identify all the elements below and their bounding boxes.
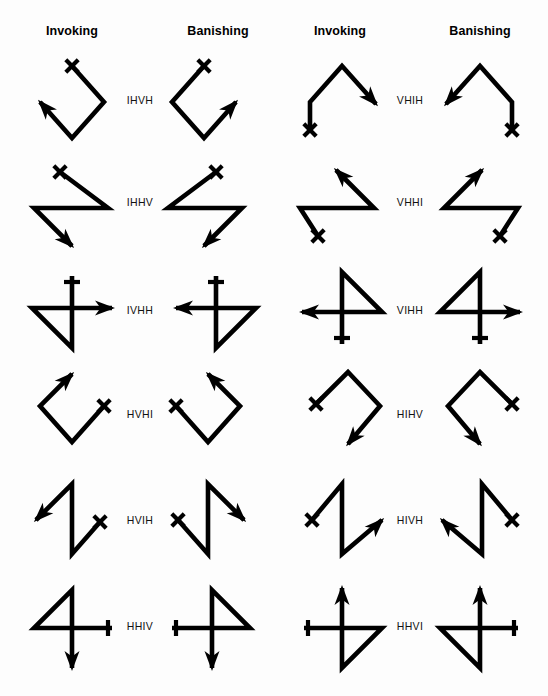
sigil-chart-sheet: InvokingBanishingInvokingBanishing IHVHI…: [0, 0, 548, 696]
arrow-head-icon-vihh-invoking: [299, 305, 319, 320]
start-cross-icon-ihvh-banishing: [198, 60, 210, 72]
start-cross-icon-hihv-invoking: [310, 398, 322, 410]
arrow-head-icon-ivhh-invoking: [95, 301, 115, 316]
arrow-head-icon-hivh-banishing: [440, 518, 459, 537]
sigil-name-label-hvhi-left: HVHI: [127, 408, 153, 420]
column-headers: InvokingBanishingInvokingBanishing: [0, 0, 548, 46]
arrow-head-icon-hhiv-banishing: [205, 651, 220, 671]
arrow-head-icon-ihhv-invoking: [55, 229, 74, 248]
start-cross-icon-ihhv-banishing: [210, 166, 222, 178]
sigil-hvhi-banishing: [170, 372, 240, 442]
arrow-head-icon-hvhi-invoking: [55, 372, 74, 391]
sigil-drawing-layer: [0, 0, 548, 696]
sigil-hvih-banishing: [172, 484, 246, 554]
sigil-hivh-banishing: [440, 484, 518, 554]
sigil-ihhv-invoking: [34, 166, 108, 248]
sigil-hhvi-banishing: [440, 585, 518, 668]
arrow-head-icon-vhih-invoking: [359, 86, 378, 106]
start-cross-icon-hvih-invoking-b: [94, 516, 106, 528]
arrow-head-icon-ivhh-banishing: [173, 301, 193, 316]
arrow-head-icon-hihv-banishing: [463, 426, 482, 446]
sigil-stroke-hihv-invoking: [316, 372, 380, 444]
arrow-head-icon-ihvh-banishing: [219, 100, 238, 120]
sigil-stroke-vhih-banishing: [446, 66, 512, 130]
sigil-hihv-invoking: [310, 372, 380, 446]
sigil-ihvh-banishing: [172, 60, 238, 138]
arrow-head-icon-ihvh-invoking: [38, 100, 57, 120]
start-cross-icon-vhhi-invoking-b: [312, 230, 324, 242]
column-header-invoking-2: Invoking: [314, 24, 366, 38]
start-cross-icon-ihhv-invoking-b: [54, 166, 66, 178]
sigil-stroke-ivhh-banishing: [176, 276, 256, 348]
sigil-hhvi-invoking: [304, 585, 382, 668]
sigil-name-label-vhhi-right: VHHI: [397, 196, 423, 208]
arrow-head-icon-vihh-banishing: [503, 305, 523, 320]
sigil-stroke-hvih-invoking: [36, 484, 100, 554]
start-cross-icon-hivh-invoking: [306, 514, 318, 526]
arrow-head-icon-ihhv-banishing: [202, 229, 221, 248]
start-cross-icon-hvhi-banishing: [170, 400, 182, 412]
sigil-stroke-hhiv-banishing: [172, 590, 250, 668]
sigil-stroke-hvih-banishing: [178, 484, 244, 554]
sigil-name-label-vhih-right: VHIH: [397, 94, 423, 106]
arrow-head-icon-hhvi-banishing: [473, 585, 488, 605]
sigil-name-label-ivhh-left: IVHH: [127, 304, 153, 316]
arrow-head-icon-vhhi-banishing: [465, 168, 484, 187]
sigil-vhih-banishing: [444, 66, 518, 136]
start-cross-icon-hihv-invoking-b: [310, 398, 322, 410]
start-cross-icon-ihvh-banishing-b: [198, 60, 210, 72]
sigil-stroke-ihhv-invoking: [34, 172, 108, 246]
sigil-stroke-ihvh-banishing: [172, 66, 236, 138]
sigil-name-label-ihhv-left: IHHV: [127, 196, 153, 208]
sigil-name-label-ihvh-left: IHVH: [127, 94, 153, 106]
arrow-head-icon-hvih-banishing: [227, 503, 246, 522]
sigil-stroke-hhvi-banishing: [440, 588, 518, 668]
sigil-stroke-hhvi-invoking: [304, 588, 382, 668]
arrow-head-icon-hivh-invoking: [365, 518, 384, 537]
sigil-stroke-vihh-invoking: [302, 272, 382, 344]
sigil-stroke-vhih-invoking: [310, 66, 376, 130]
sigil-stroke-hihv-banishing: [448, 372, 512, 444]
sigil-stroke-hhiv-invoking: [34, 590, 112, 668]
sigil-stroke-hivh-invoking: [312, 484, 382, 554]
sigil-name-label-hivh-right: HIVH: [397, 514, 423, 526]
sigil-vihh-invoking: [299, 272, 382, 344]
start-cross-icon-ihvh-invoking-b: [66, 60, 78, 72]
sigil-stroke-hvhi-banishing: [176, 374, 240, 442]
sigil-vhih-invoking: [304, 66, 378, 136]
sigil-stroke-vihh-banishing: [440, 272, 520, 344]
start-cross-icon-hihv-banishing-b: [506, 398, 518, 410]
start-cross-icon-hivh-banishing: [506, 514, 518, 526]
sigil-hvhi-invoking: [40, 372, 110, 442]
sigil-ivhh-invoking: [32, 276, 115, 348]
column-header-invoking-0: Invoking: [46, 24, 98, 38]
sigil-hhiv-banishing: [172, 590, 250, 671]
sigil-hihv-banishing: [448, 372, 518, 446]
sigil-vihh-banishing: [440, 272, 523, 344]
start-cross-icon-hvih-banishing-b: [172, 514, 184, 526]
start-cross-icon-hvhi-banishing-b: [170, 400, 182, 412]
start-cross-icon-ihhv-banishing-b: [210, 166, 222, 178]
sigil-hvih-invoking: [34, 484, 106, 554]
arrow-head-icon-hvih-invoking: [34, 503, 53, 522]
start-cross-icon-vhih-invoking: [304, 124, 316, 136]
start-cross-icon-vhhi-banishing-b: [494, 230, 506, 242]
start-cross-icon-hivh-invoking-b: [306, 514, 318, 526]
sigil-stroke-vhhi-invoking: [300, 170, 374, 236]
sigil-stroke-ihvh-invoking: [40, 66, 104, 138]
arrow-head-icon-hihv-invoking: [346, 426, 365, 446]
sigil-stroke-hvhi-invoking: [40, 374, 104, 442]
start-cross-icon-hvih-invoking: [94, 516, 106, 528]
sigil-name-label-hhiv-left: HHIV: [127, 620, 153, 632]
sigil-stroke-ivhh-invoking: [32, 276, 112, 348]
start-cross-icon-hvhi-invoking-b: [98, 400, 110, 412]
start-cross-icon-ihvh-invoking: [66, 60, 78, 72]
sigil-ivhh-banishing: [173, 276, 256, 348]
arrow-head-icon-hvhi-banishing: [206, 372, 225, 391]
arrow-head-icon-hhiv-invoking: [65, 651, 80, 671]
start-cross-icon-hivh-banishing-b: [506, 514, 518, 526]
sigil-name-label-hvih-left: HVIH: [127, 514, 153, 526]
start-cross-icon-vhih-banishing-b: [506, 124, 518, 136]
start-cross-icon-vhhi-banishing: [494, 230, 506, 242]
sigil-stroke-hivh-banishing: [442, 484, 512, 554]
